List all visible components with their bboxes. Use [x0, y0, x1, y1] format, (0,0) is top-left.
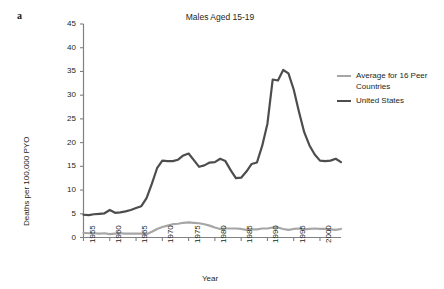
axes	[84, 24, 342, 238]
x-tick-label: 1970	[166, 225, 175, 243]
legend-label-peer: Average for 16 Peer Countries	[356, 70, 444, 92]
x-tick-label: 1995	[298, 225, 307, 243]
y-tick-label: 25	[54, 114, 76, 123]
x-tick-label: 1955	[88, 225, 97, 243]
y-tick-label: 40	[54, 43, 76, 52]
y-tick-label: 15	[54, 161, 76, 170]
y-tick-label: 45	[54, 19, 76, 28]
y-tick-label: 10	[54, 185, 76, 194]
series-line-united-states	[84, 70, 342, 215]
x-tick-label: 1990	[271, 225, 280, 243]
x-tick-label: 1965	[140, 225, 149, 243]
legend-item-united-states: United States	[337, 95, 444, 106]
x-tick-label: 1960	[114, 225, 123, 243]
legend-item-peer: Average for 16 Peer Countries	[337, 70, 444, 92]
y-tick-label: 30	[54, 90, 76, 99]
y-tick-label: 20	[54, 138, 76, 147]
legend-swatch-peer-icon	[337, 75, 351, 77]
chart-figure: a Males Aged 15-19 Deaths per 100,000 PY…	[0, 0, 444, 289]
y-tick-label: 0	[54, 233, 76, 242]
y-tick-label: 35	[54, 66, 76, 75]
y-tick-label: 5	[54, 209, 76, 218]
x-tick-label: 2000	[324, 225, 333, 243]
x-tick-label: 1985	[245, 225, 254, 243]
x-tick-label: 1980	[219, 225, 228, 243]
chart-legend: Average for 16 Peer Countries United Sta…	[337, 70, 444, 109]
x-tick-label: 1975	[193, 225, 202, 243]
legend-swatch-us-icon	[337, 100, 351, 102]
data-series-group	[84, 70, 342, 234]
legend-label-united-states: United States	[356, 95, 444, 106]
